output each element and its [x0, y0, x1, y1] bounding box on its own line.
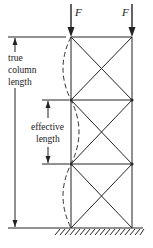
load-arrow-right	[129, 4, 136, 37]
true-length-label-line2: column	[8, 65, 37, 75]
true-length-label-line3: length	[8, 77, 32, 87]
effective-length-dimension	[42, 100, 69, 164]
true-length-label-line1: true	[8, 53, 23, 63]
load-arrow-left	[68, 4, 75, 37]
force-label-right: F	[121, 6, 129, 18]
braced-frame-diagram: F F	[0, 0, 153, 248]
ground-support	[8, 228, 144, 235]
effective-length-label-line2: length	[36, 134, 60, 144]
frame	[71, 37, 132, 228]
force-label-left: F	[74, 6, 82, 18]
effective-length-label-line1: effective	[31, 122, 64, 132]
ground-hatching	[55, 229, 144, 235]
